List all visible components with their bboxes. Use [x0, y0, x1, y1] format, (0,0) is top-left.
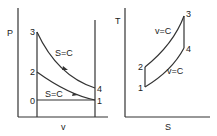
ts-point-1: 1	[138, 83, 143, 93]
ts-point-2: 2	[138, 62, 143, 72]
pv-point-1: 1	[97, 96, 102, 106]
ts-curve-lower-label: v=C	[167, 66, 184, 76]
pv-point-4: 4	[97, 84, 102, 94]
ts-curve-upper-label: v=C	[155, 26, 172, 36]
ts-curve-2-3	[145, 16, 184, 67]
diagram-canvas: P v 3 2 0 1 4 S=C S=C T S 1 2 3 4 v=C v=…	[0, 0, 217, 136]
pv-curve-lower-label: S=C	[45, 89, 63, 99]
pv-point-3: 3	[30, 27, 35, 37]
pv-curve-3-4	[37, 32, 95, 88]
pv-curve-upper-label: S=C	[55, 48, 73, 58]
ts-x-label: S	[165, 122, 171, 132]
pv-point-2: 2	[30, 67, 35, 77]
arrow-icon	[62, 66, 68, 70]
pv-y-label: P	[7, 28, 13, 38]
ts-diagram: T S 1 2 3 4 v=C v=C	[115, 8, 210, 132]
ts-point-3: 3	[186, 9, 191, 19]
ts-y-label: T	[115, 16, 121, 26]
pv-x-label: v	[61, 122, 66, 132]
pv-point-0: 0	[30, 96, 35, 106]
pv-diagram: P v 3 2 0 1 4 S=C S=C	[7, 8, 108, 132]
ts-point-4: 4	[186, 44, 191, 54]
